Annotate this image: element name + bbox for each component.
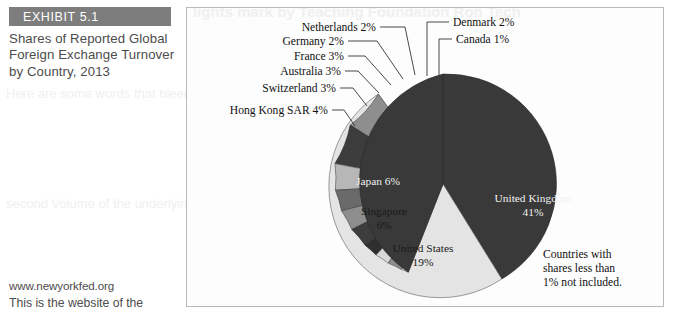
pie-label-united-kingdom-line2: 41% xyxy=(523,206,544,218)
chart-panel: lights mark by Teaching Foundation Ron T… xyxy=(186,7,664,307)
pie-chart: United Kingdom 41% United States 19% Sin… xyxy=(187,8,664,307)
leader-switzerland xyxy=(340,88,367,106)
pie-label-germany: Germany 2% xyxy=(283,35,345,48)
leader-france xyxy=(348,56,391,85)
exhibit-title: Shares of Reported Global Foreign Exchan… xyxy=(9,31,181,80)
pie-footnote: Countries with shares less than 1% not i… xyxy=(543,248,622,289)
pie-label-united-states-line2: 19% xyxy=(413,256,434,268)
pie-label-denmark: Denmark 2% xyxy=(453,16,515,29)
leader-denmark xyxy=(427,22,449,76)
pie-label-united-kingdom-line1: United Kingdom xyxy=(495,192,572,204)
pie-label-canada: Canada 1% xyxy=(456,33,509,46)
exhibit-caption-column: Here are some words that bleed through s… xyxy=(0,0,186,314)
exhibit-number-band: EXHIBIT 5.1 xyxy=(9,7,171,26)
pie-label-singapore-line2: 6% xyxy=(376,219,392,231)
pie-label-united-states-line1: United States xyxy=(392,242,454,254)
pie-label-hong-kong-sar: Hong Kong SAR 4% xyxy=(230,104,329,117)
pie-label-japan: Japan 6% xyxy=(356,175,400,187)
footnote-line-3: 1% not included. xyxy=(543,276,622,289)
ghost-text-lower-left: second Volume of the underlying page tex… xyxy=(6,196,182,212)
pie-label-switzerland: Switzerland 3% xyxy=(262,82,336,95)
pie-label-france: France 3% xyxy=(294,50,344,63)
source-url-link[interactable]: www.newyorkfed.org xyxy=(9,279,181,293)
exhibit-number-label: EXHIBIT 5.1 xyxy=(23,10,99,24)
pie-label-singapore-line1: Singapore xyxy=(361,205,407,217)
leader-netherlands xyxy=(380,27,415,75)
footnote-line-1: Countries with xyxy=(543,248,612,261)
leader-australia xyxy=(345,71,379,93)
source-caption-text: This is the website of the xyxy=(9,296,184,310)
footnote-line-2: shares less than xyxy=(543,262,615,275)
leader-germany xyxy=(348,41,403,79)
pie-label-netherlands: Netherlands 2% xyxy=(302,21,377,34)
ghost-text-mid-left: Here are some words that bleed through xyxy=(6,86,182,102)
pie-label-australia: Australia 3% xyxy=(280,65,341,78)
leader-canada xyxy=(439,39,452,75)
